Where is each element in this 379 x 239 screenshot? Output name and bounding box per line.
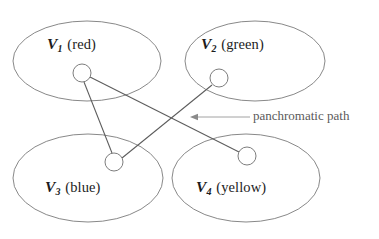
group-symbol-v2: V bbox=[201, 35, 211, 52]
group-label-v2: V2 (green) bbox=[201, 36, 264, 54]
group-subscript-v4: 4 bbox=[206, 186, 212, 197]
group-color-v1: (red) bbox=[67, 36, 96, 52]
node-v1[interactable] bbox=[73, 64, 91, 82]
node-v3[interactable] bbox=[105, 153, 123, 171]
panchromatic-path-diagram: V1 (red) V2 (green) V3 (blue) V4 (yellow… bbox=[0, 0, 379, 239]
group-label-v3: V3 (blue) bbox=[45, 179, 101, 197]
node-v2[interactable] bbox=[210, 69, 228, 87]
group-label-v4: V4 (yellow) bbox=[196, 179, 266, 197]
annotation-arrow-head-icon bbox=[190, 114, 198, 120]
annotation-label: panchromatic path bbox=[253, 109, 349, 122]
group-subscript-v2: 2 bbox=[211, 43, 217, 54]
group-label-v1: V1 (red) bbox=[47, 36, 96, 54]
edge-v1-v3 bbox=[84, 82, 112, 153]
edge-v1-v4 bbox=[90, 77, 239, 152]
group-subscript-v1: 1 bbox=[57, 43, 63, 54]
group-symbol-v3: V bbox=[45, 178, 55, 195]
group-color-v3: (blue) bbox=[65, 179, 100, 195]
group-symbol-v4: V bbox=[196, 178, 206, 195]
node-v4[interactable] bbox=[238, 147, 256, 165]
group-ellipse-v3 bbox=[13, 134, 163, 222]
group-color-v2: (green) bbox=[221, 36, 264, 52]
edge-v2-v3 bbox=[122, 85, 212, 158]
group-subscript-v3: 3 bbox=[55, 186, 61, 197]
group-ellipse-v2 bbox=[185, 21, 325, 101]
group-symbol-v1: V bbox=[47, 35, 57, 52]
group-color-v4: (yellow) bbox=[216, 179, 266, 195]
